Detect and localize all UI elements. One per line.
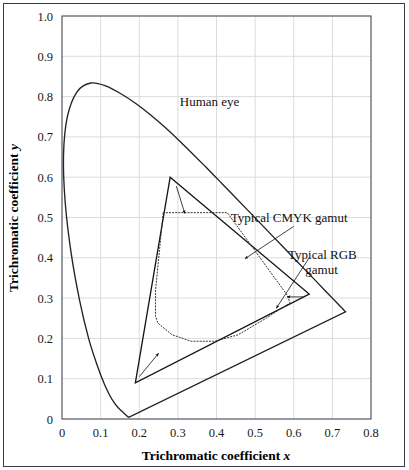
annotation-cmyk-gamut: Typical CMYK gamut (231, 210, 348, 225)
y-axis-title: Trichromatic coefficient y (6, 143, 21, 292)
leader-cmyk-leader (245, 226, 294, 258)
leader-rgb-arrow-bottom (139, 353, 158, 376)
y-tick-label: 0.3 (37, 292, 53, 306)
y-tick-label: 0.1 (37, 372, 53, 386)
y-tick-label: 0.6 (37, 171, 53, 185)
y-tick-label: 0.8 (37, 90, 53, 104)
y-tick-label: 0.9 (37, 50, 53, 64)
y-tick-label: 0 (47, 413, 53, 427)
annotation-rgb-gamut-line1: Typical RGB (288, 247, 357, 262)
x-tick-label: 0.2 (131, 426, 147, 440)
y-tick-label: 0.7 (37, 130, 53, 144)
y-tick-label: 0.2 (37, 332, 53, 346)
series-path-typical-rgb-gamut (135, 177, 309, 383)
x-tick-label: 0.8 (363, 426, 379, 440)
y-axis-tick-labels: 00.10.20.30.40.50.60.70.80.91.0 (37, 10, 53, 427)
x-tick-label: 0.7 (325, 426, 341, 440)
chromaticity-diagram-figure: 00.10.20.30.40.50.60.70.8 00.10.20.30.40… (0, 0, 409, 470)
x-tick-label: 0.1 (93, 426, 109, 440)
x-tick-label: 0.4 (209, 426, 225, 440)
series-path-typical-cmyk-gamut (155, 213, 289, 342)
x-tick-label: 0.6 (286, 426, 302, 440)
chart-canvas: 00.10.20.30.40.50.60.70.8 00.10.20.30.40… (0, 0, 409, 470)
annotation-rgb-gamut-line2: gamut (305, 262, 338, 277)
x-tick-label: 0.3 (170, 426, 186, 440)
y-tick-label: 1.0 (37, 10, 53, 24)
annotation-human-eye: Human eye (180, 94, 240, 109)
x-axis-title: Trichromatic coefficient x (142, 448, 291, 463)
x-axis-tick-labels: 00.10.20.30.40.50.60.70.8 (59, 426, 379, 440)
leader-rgb-leader (276, 258, 309, 308)
y-tick-label: 0.5 (37, 211, 53, 225)
x-tick-label: 0.5 (247, 426, 263, 440)
x-tick-label: 0 (59, 426, 65, 440)
y-tick-label: 0.4 (37, 251, 53, 265)
